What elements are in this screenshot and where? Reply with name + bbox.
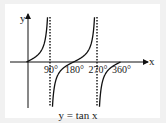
- x-tick-label-180: 180°: [65, 64, 84, 75]
- chart-caption: y = tan x: [59, 109, 98, 121]
- x-tick-label-360: 360°: [112, 64, 131, 75]
- y-axis-label: y: [20, 12, 26, 24]
- x-axis-label: x: [149, 55, 155, 67]
- tan-curve-branch-1: [27, 17, 48, 62]
- x-tick-label-270: 270°: [89, 64, 108, 75]
- x-tick-label-90: 90°: [44, 64, 58, 75]
- tan-chart: 90°180°270°360° y x y = tan x: [0, 0, 166, 123]
